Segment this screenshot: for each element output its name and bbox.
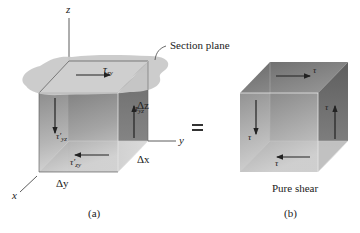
tau-prime-zy-label: τ′zy bbox=[70, 158, 81, 169]
tau-prime-yz-label: τ′yz bbox=[56, 132, 67, 143]
x-axis bbox=[20, 176, 37, 192]
caption-a: (a) bbox=[88, 208, 100, 219]
tau-right-label: τ bbox=[325, 103, 328, 112]
tau-yz-label: τyz bbox=[135, 104, 144, 115]
tau-subscript: yz bbox=[138, 107, 144, 115]
cube-a bbox=[20, 18, 176, 192]
tau-subscript: zy bbox=[107, 69, 113, 77]
tau-zy-label: τzy bbox=[103, 64, 113, 77]
cube-b bbox=[240, 62, 348, 172]
dy-label: Δy bbox=[56, 178, 69, 189]
tau-left-label: τ bbox=[248, 133, 251, 142]
diagram-canvas bbox=[0, 0, 360, 233]
tau-subscript: zy bbox=[75, 161, 81, 169]
x-axis-label: x bbox=[12, 190, 17, 201]
equals-sign bbox=[192, 124, 203, 131]
tau-bottom-label: τ bbox=[275, 159, 278, 168]
tau-top-label: τ bbox=[313, 66, 316, 75]
pure-shear-title: Pure shear bbox=[272, 183, 318, 194]
dx-label: Δx bbox=[137, 154, 150, 165]
caption-b: (b) bbox=[284, 208, 297, 219]
tau-subscript: yz bbox=[61, 135, 67, 143]
z-axis-label: z bbox=[66, 4, 70, 15]
section-plane-label: Section plane bbox=[170, 40, 230, 51]
y-axis-label: y bbox=[179, 135, 184, 146]
